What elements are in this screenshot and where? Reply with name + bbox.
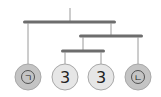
bar-bottom bbox=[61, 50, 105, 53]
weight-ball-1: ㄱ bbox=[15, 64, 41, 90]
bar-middle bbox=[79, 35, 143, 38]
mobile-diagram: ㄱ 3 3 ㄴ bbox=[0, 0, 161, 97]
weight-label-2: 3 bbox=[60, 68, 70, 87]
weight-label-4: ㄴ bbox=[134, 73, 142, 83]
weight-ball-2: 3 bbox=[52, 64, 78, 90]
weight-ball-4: ㄴ bbox=[125, 64, 151, 90]
weight-label-1: ㄱ bbox=[24, 73, 32, 83]
weight-ball-3: 3 bbox=[88, 64, 114, 90]
weight-label-3: 3 bbox=[96, 68, 106, 87]
bar-top bbox=[23, 21, 116, 24]
